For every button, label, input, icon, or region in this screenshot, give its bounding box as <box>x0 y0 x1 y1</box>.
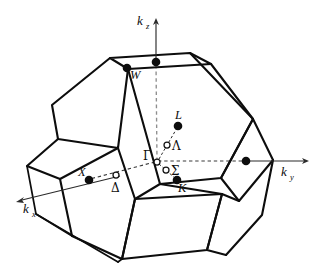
internal-axis-lines <box>86 63 246 180</box>
brillouin-zone-figure: k z k y k x W L Λ Γ Σ X Δ K <box>0 0 317 270</box>
symmetry-point-markers <box>85 58 251 185</box>
point-delta[interactable] <box>113 172 119 178</box>
point-sigma[interactable] <box>163 167 169 173</box>
figure-labels: k z k y k x W L Λ Γ Σ X Δ K <box>23 13 294 219</box>
back-bottom-right-edge <box>118 259 122 262</box>
label-gamma: Γ <box>143 149 151 163</box>
label-W: W <box>130 68 142 82</box>
lower-right-hex-face-edge <box>226 160 273 255</box>
kx-internal-dashed <box>86 162 155 180</box>
point-lambda[interactable] <box>164 142 170 148</box>
point-L[interactable] <box>174 122 183 131</box>
label-kz-subscript: z <box>145 21 150 31</box>
label-K: K <box>177 181 187 195</box>
label-ky-subscript: y <box>289 172 294 182</box>
point-X-top[interactable] <box>152 58 161 67</box>
label-ky: k <box>281 164 287 179</box>
upper-left-hex-face <box>52 58 128 148</box>
point-X-right[interactable] <box>242 157 251 166</box>
label-L: L <box>174 108 182 122</box>
label-kx: k <box>23 201 29 216</box>
upper-right-hex-face-edge-top <box>211 64 253 119</box>
external-axes <box>16 18 309 203</box>
label-kz: k <box>137 13 143 28</box>
label-sigma: Σ <box>171 164 179 178</box>
label-delta: Δ <box>111 181 120 195</box>
point-gamma[interactable] <box>154 159 160 165</box>
label-X: X <box>77 165 87 179</box>
lower-left-hex-face <box>60 148 135 259</box>
kz-internal-dashed <box>156 63 157 161</box>
back-bottom-edge <box>36 214 72 236</box>
point-X-left[interactable] <box>85 176 94 185</box>
kx-axis-line <box>22 176 120 200</box>
label-lambda: Λ <box>171 139 181 153</box>
label-kx-subscript: x <box>31 209 36 219</box>
